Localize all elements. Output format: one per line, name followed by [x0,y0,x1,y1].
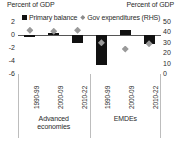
y-tick-right-10: 10 [163,60,179,67]
bar-1990-99-ae [24,35,35,37]
square-marker-icon [22,15,27,20]
y-tick-right-30: 30 [163,39,179,46]
legend-label-primary-balance: Primary balance [29,14,77,21]
x-tick-label-2000-09-emde: 2000-09 [128,86,135,109]
y-tick-left--2: -2 [1,44,15,51]
y-tick-right-20: 20 [163,49,179,56]
right-axis-title: Percent of GDP [126,1,174,8]
x-tick-label-2010-22-emde: 2010-22 [152,86,159,109]
x-tick-label-2010-22-ae: 2010-22 [81,86,88,109]
y-tick-left--4: -4 [1,57,15,64]
x-tick-label-1990-99-emde: 1990-99 [104,86,111,109]
y-tick-right-50: 50 [163,18,179,25]
y-tick-left-2: 2 [1,18,15,25]
group-label-emdes: EMDEs [90,115,162,123]
y-tick-left--6: -6 [1,70,15,77]
diamond-marker-icon [80,15,85,20]
y-tick-right-0: 0 [163,70,179,77]
y-tick-left-0: 0 [1,31,15,38]
zero-baseline [18,35,161,36]
group-separator-1 [90,74,91,138]
marker-2000-09-emde [122,46,129,53]
group-separator-2 [160,74,161,138]
legend-item-gov-expenditures: Gov expenditures (RHS) [80,14,160,21]
legend-item-primary-balance: Primary balance [22,14,77,21]
y-tick-right-40: 40 [163,28,179,35]
chart-figure: Percent of GDP Percent of GDP Primary ba… [0,0,180,141]
plot-area [18,22,161,74]
left-axis-title: Percent of GDP [7,1,55,8]
chart-legend: Primary balance Gov expenditures (RHS) [22,14,160,21]
group-label-advanced-economies: Advancedeconomies [18,115,90,131]
legend-label-gov-expenditures: Gov expenditures (RHS) [87,14,160,21]
x-tick-label-2000-09-ae: 2000-09 [57,86,64,109]
bar-2010-22-ae [72,35,83,43]
x-tick-label-1990-99-ae: 1990-99 [33,86,40,109]
marker-2010-22-ae [74,27,81,34]
bar-2000-09-emde [120,30,131,35]
marker-1990-99-ae [26,27,33,34]
category-label-area: 1990-992000-092010-221990-992000-092010-… [18,74,161,138]
